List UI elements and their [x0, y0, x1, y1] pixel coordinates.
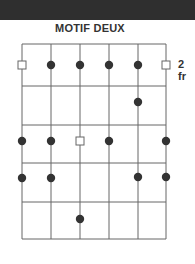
finger-dot-icon	[76, 215, 84, 223]
finger-dot-icon	[105, 137, 113, 145]
root-square-icon	[76, 137, 84, 145]
chord-diagram	[0, 0, 195, 264]
finger-dot-icon	[18, 174, 26, 182]
finger-dot-icon	[47, 61, 55, 69]
finger-dot-icon	[76, 61, 84, 69]
finger-dot-icon	[47, 174, 55, 182]
fret-label: 2 fr	[178, 58, 195, 82]
root-square-icon	[18, 61, 26, 69]
finger-dot-icon	[134, 61, 142, 69]
finger-dot-icon	[162, 173, 170, 181]
finger-dot-icon	[105, 61, 113, 69]
root-square-icon	[162, 61, 170, 69]
finger-dot-icon	[134, 173, 142, 181]
finger-dot-icon	[162, 137, 170, 145]
finger-dot-icon	[134, 98, 142, 106]
finger-dot-icon	[47, 137, 55, 145]
finger-dot-icon	[18, 137, 26, 145]
